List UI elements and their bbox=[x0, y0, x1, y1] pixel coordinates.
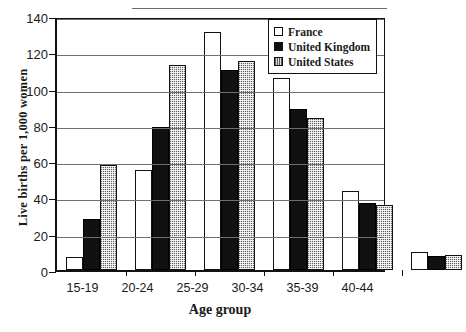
white-square-icon bbox=[274, 27, 283, 36]
bar bbox=[307, 118, 324, 270]
gridline bbox=[57, 237, 384, 238]
bar-group bbox=[402, 19, 466, 270]
gridline bbox=[57, 164, 384, 165]
bar bbox=[342, 191, 359, 270]
legend-item-france: France bbox=[274, 24, 370, 39]
gridline bbox=[57, 92, 384, 93]
y-axis-tick-mark bbox=[49, 91, 56, 92]
bar bbox=[290, 109, 307, 270]
bar bbox=[83, 219, 100, 270]
scan-artifact-line bbox=[132, 8, 387, 9]
x-axis-tick-mark bbox=[126, 270, 127, 276]
x-axis-tick-mark bbox=[264, 270, 265, 276]
legend-item-label: United States bbox=[288, 56, 354, 68]
bar bbox=[169, 65, 186, 270]
x-axis-tick-label: 15-19 bbox=[55, 281, 110, 295]
y-axis-tick-mark bbox=[49, 199, 56, 200]
x-axis-tick-mark bbox=[333, 270, 334, 276]
bar bbox=[135, 170, 152, 270]
y-axis-tick-mark bbox=[49, 127, 56, 128]
y-axis-tick-mark bbox=[49, 272, 56, 273]
bar bbox=[66, 257, 83, 270]
bar bbox=[445, 255, 462, 270]
y-axis-tick-label: 0 bbox=[8, 265, 48, 280]
x-axis-tick-label: 40-44 bbox=[330, 281, 385, 295]
bar bbox=[100, 165, 117, 270]
y-axis-tick-mark bbox=[49, 236, 56, 237]
y-axis-tick-label: 120 bbox=[8, 47, 48, 62]
y-axis-tick-mark bbox=[49, 18, 56, 19]
y-axis-tick-mark bbox=[49, 54, 56, 55]
x-axis-title: Age group bbox=[55, 302, 385, 318]
x-axis-tick-label: 20-24 bbox=[110, 281, 165, 295]
x-axis-tick-mark bbox=[195, 270, 196, 276]
bar bbox=[273, 78, 290, 270]
x-axis-tick-labels: 15-1920-2425-2930-3435-3940-44 bbox=[55, 281, 385, 295]
gray-square-icon bbox=[274, 57, 283, 66]
x-axis-tick-mark bbox=[402, 270, 403, 276]
y-axis-tick-label: 20 bbox=[8, 228, 48, 243]
bar-group bbox=[57, 19, 126, 270]
bar-group bbox=[126, 19, 195, 270]
y-axis-tick-label: 140 bbox=[8, 11, 48, 26]
legend-item-label: United Kingdom bbox=[288, 41, 370, 53]
bar bbox=[428, 256, 445, 271]
legend-item-united-kingdom: United Kingdom bbox=[274, 39, 370, 54]
gridline bbox=[57, 128, 384, 129]
bar bbox=[411, 252, 428, 270]
bar-group bbox=[195, 19, 264, 270]
black-square-icon bbox=[274, 42, 283, 51]
gridline bbox=[57, 200, 384, 201]
x-axis-tick-label: 35-39 bbox=[275, 281, 330, 295]
x-axis-tick-label: 25-29 bbox=[165, 281, 220, 295]
legend-item-united-states: United States bbox=[274, 54, 370, 69]
legend-item-label: France bbox=[288, 26, 322, 38]
bar bbox=[221, 70, 238, 270]
bar bbox=[152, 127, 169, 270]
legend: France United Kingdom United States bbox=[268, 19, 377, 74]
bar bbox=[238, 61, 255, 270]
y-axis-tick-label: 100 bbox=[8, 83, 48, 98]
y-axis-tick-label: 60 bbox=[8, 156, 48, 171]
y-axis-tick-mark bbox=[49, 163, 56, 164]
y-axis-tick-label: 40 bbox=[8, 192, 48, 207]
bar bbox=[204, 32, 221, 270]
y-axis-tick-label: 80 bbox=[8, 119, 48, 134]
x-axis-tick-label: 30-34 bbox=[220, 281, 275, 295]
